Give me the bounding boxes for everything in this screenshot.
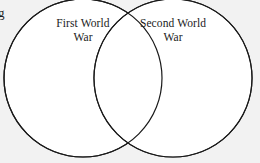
venn-diagram-canvas: First World War Second World War g bbox=[0, 0, 260, 163]
cropped-margin-text: g bbox=[0, 6, 12, 20]
venn-circles-graphic bbox=[0, 0, 260, 163]
venn-circle-right-fill bbox=[95, 0, 252, 156]
